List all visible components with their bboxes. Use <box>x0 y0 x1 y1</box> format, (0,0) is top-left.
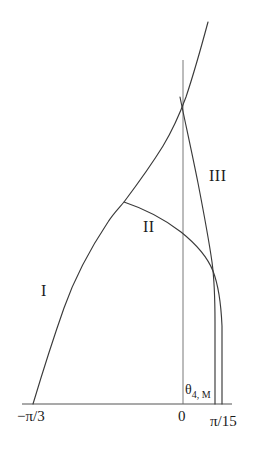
theta-symbol: θ <box>185 382 192 397</box>
curve-boundary-III <box>180 97 215 404</box>
plot-canvas <box>0 0 265 459</box>
curve-boundary-I <box>33 22 208 404</box>
curves-group <box>33 22 222 404</box>
axis-variable-label: θ4, M <box>185 383 211 400</box>
region-label-three: III <box>209 168 226 184</box>
region-label-one: I <box>41 283 47 299</box>
tick-label-left: −π/3 <box>17 409 45 424</box>
figure-container: I II III θ4, M −π/3 0 π/15 <box>0 0 265 459</box>
tick-label-right: π/15 <box>210 414 237 429</box>
axes-group <box>22 60 232 404</box>
tick-label-zero: 0 <box>178 409 186 424</box>
theta-subscript: 4, M <box>192 389 211 400</box>
region-label-two: II <box>143 219 155 235</box>
